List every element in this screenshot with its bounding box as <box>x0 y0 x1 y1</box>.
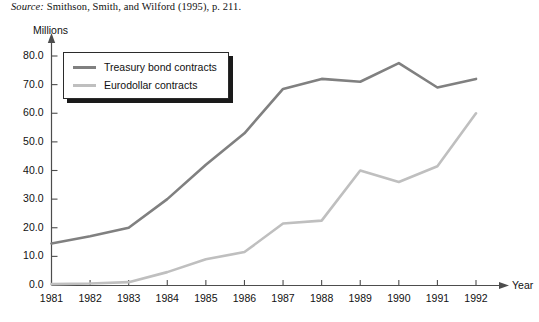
x-axis-tick-label: 1991 <box>417 292 457 304</box>
y-axis-tick-label: 70.0 <box>16 78 44 90</box>
y-axis <box>48 33 55 285</box>
legend-item-label: Eurodollar contracts <box>104 80 197 91</box>
x-axis-tick-label: 1982 <box>70 292 110 304</box>
y-axis-tick-label: 80.0 <box>16 49 44 61</box>
y-axis-tick-label: 60.0 <box>16 106 44 118</box>
legend-line-swatch-icon <box>73 84 96 87</box>
y-axis-tick-label: 50.0 <box>16 135 44 147</box>
y-axis-tick-label: 30.0 <box>16 192 44 204</box>
chart-plot-area <box>0 0 539 322</box>
x-axis-tick-label: 1985 <box>186 292 226 304</box>
x-axis-tick-label: 1988 <box>302 292 342 304</box>
legend-item-eurodollar-contracts[interactable]: Eurodollar contracts <box>73 77 197 93</box>
x-axis-tick-label: 1984 <box>147 292 187 304</box>
x-axis-tick-label: 1986 <box>224 292 264 304</box>
x-axis-tick-label: 1990 <box>379 292 419 304</box>
chart-series-line <box>52 113 477 284</box>
x-axis-tick-label: 1989 <box>340 292 380 304</box>
y-axis-tick-label: 10.0 <box>16 249 44 261</box>
x-axis-title: Year <box>512 279 533 291</box>
x-axis-tick-label: 1992 <box>456 292 496 304</box>
chart-legend: Treasury bond contracts Eurodollar contr… <box>63 52 229 99</box>
x-axis-tick-label: 1981 <box>32 292 72 304</box>
y-axis-tick-label: 20.0 <box>16 221 44 233</box>
x-axis-tick-label: 1983 <box>109 292 149 304</box>
legend-item-treasury-bond-contracts[interactable]: Treasury bond contracts <box>73 59 217 75</box>
y-axis-tick-label: 0.0 <box>16 278 44 290</box>
y-axis-tick-marks <box>52 56 58 285</box>
line-chart-figure: Millions Year 80.070.060.050.040.030.020… <box>0 0 539 322</box>
legend-item-label: Treasury bond contracts <box>104 62 217 73</box>
legend-line-swatch-icon <box>73 66 96 69</box>
x-axis-tick-label: 1987 <box>263 292 303 304</box>
y-axis-title: Millions <box>33 24 68 36</box>
y-axis-tick-label: 40.0 <box>16 164 44 176</box>
